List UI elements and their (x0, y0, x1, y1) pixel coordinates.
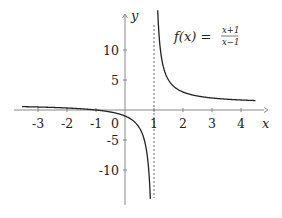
x-axis-arrow-icon (264, 108, 268, 113)
title-denominator: x−1 (222, 37, 239, 47)
y-axis-label: y (130, 8, 139, 23)
x-tick-label: 4 (237, 116, 245, 131)
x-axis-label: x (262, 116, 270, 131)
x-tick-label: -2 (61, 116, 73, 131)
function-plot: -3-2-101234105-5-10 x y f(x) = x+1 x−1 (0, 0, 282, 218)
y-tick-label: 5 (111, 73, 119, 88)
x-tick-label: -1 (90, 116, 102, 131)
x-tick-label: 0 (111, 116, 119, 131)
x-tick-label: -3 (32, 116, 44, 131)
x-tick-label: 1 (150, 116, 158, 131)
y-tick-label: 10 (103, 43, 119, 58)
chart-title: f(x) = x+1 x−1 (173, 25, 239, 47)
curves (22, 10, 255, 199)
y-tick-label: -10 (99, 163, 119, 178)
title-numerator: x+1 (222, 25, 239, 35)
x-tick-label: 3 (208, 116, 216, 131)
y-tick-label: -5 (107, 133, 119, 148)
title-lhs: f(x) = (173, 29, 211, 44)
svg-text:f(x) =: f(x) = (173, 29, 211, 44)
right-branch-curve (158, 10, 256, 100)
x-tick-label: 2 (179, 116, 187, 131)
